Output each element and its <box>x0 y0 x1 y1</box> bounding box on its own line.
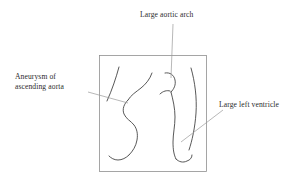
label-large-aortic-arch-text: Large aortic arch <box>140 10 193 20</box>
aortopulmonary-hook-stroke <box>160 91 170 94</box>
diagram-frame <box>100 56 207 172</box>
ventricle-base-hook-stroke <box>176 155 192 162</box>
aneurysm-bulge-stroke <box>123 100 137 155</box>
label-aneurysm-line-2: ascending aorta <box>15 82 64 92</box>
left-chest-wall-stroke <box>107 67 119 101</box>
label-aneurysm-line-1: Aneurysm of <box>15 72 64 82</box>
label-large-left-ventricle: Large left ventricle <box>219 100 279 110</box>
upper-left-mediastinum-stroke <box>128 73 152 100</box>
leader-line-aneurysm <box>88 92 128 103</box>
label-large-aortic-arch: Large aortic arch <box>140 10 193 20</box>
label-aneurysm-of-ascending-aorta: Aneurysm of ascending aorta <box>15 72 64 91</box>
cardiac-apex-stroke <box>109 155 129 160</box>
right-chest-wall-stroke <box>189 68 196 150</box>
aortic-arch-knob-stroke <box>165 73 175 92</box>
right-heart-border-stroke <box>171 92 176 159</box>
anatomy-strokes <box>107 67 196 162</box>
figure-page: Large aortic arch Aneurysm of ascending … <box>0 0 308 179</box>
leader-line-aortic-arch <box>171 24 173 78</box>
label-large-left-ventricle-text: Large left ventricle <box>219 100 279 110</box>
leader-lines <box>88 24 223 142</box>
leader-line-left-ventricle <box>181 110 223 142</box>
